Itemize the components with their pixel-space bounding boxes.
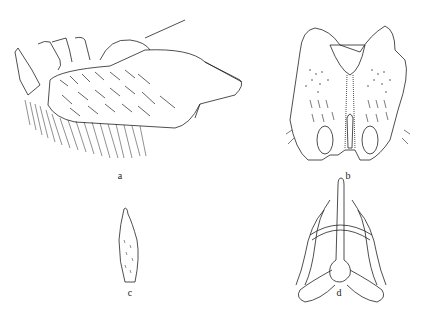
panel-label-a: a (118, 170, 122, 181)
panel-label-d: d (337, 287, 342, 298)
panel-label-c: c (128, 287, 132, 298)
panel-label-b: b (346, 170, 351, 181)
panel-d-drawing (0, 0, 423, 311)
figure-plate: a b c d (0, 0, 423, 311)
